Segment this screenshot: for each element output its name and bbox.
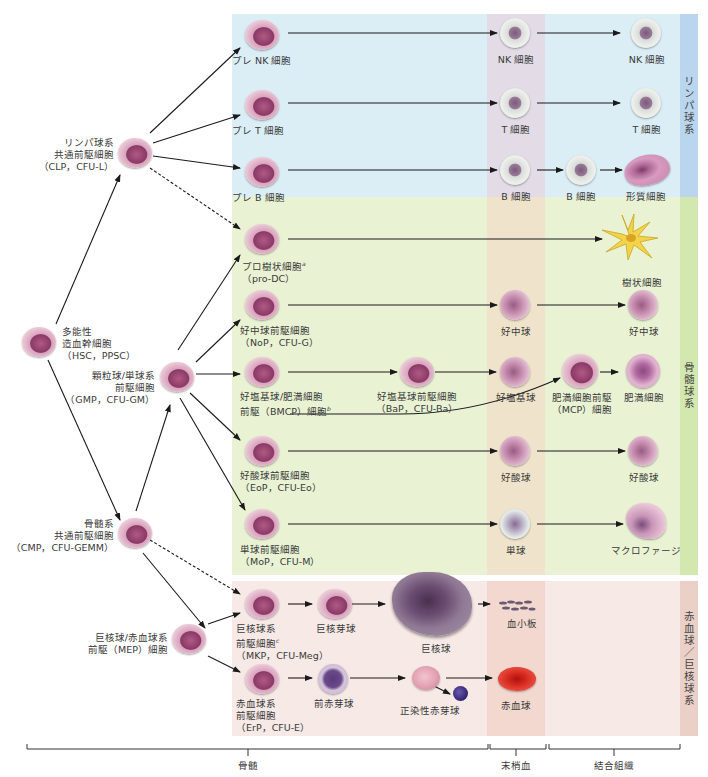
neutrophil-tissue-cell <box>628 290 658 320</box>
bmcp-cell <box>245 357 279 387</box>
eosinophil-tissue-cell <box>628 436 658 466</box>
pre-t-label: プレ T 細胞 <box>232 125 284 137</box>
pre-nk-cell <box>245 20 279 50</box>
t-tissue-label: T 細胞 <box>633 124 662 136</box>
dendritic-cell <box>600 212 660 262</box>
t-tissue-cell <box>631 88 661 118</box>
macrophage-label: マクロファージ <box>611 545 681 557</box>
scale-peripheral-blood: 末梢血 <box>501 760 531 772</box>
cmp-cell <box>118 518 152 548</box>
mkp-label: 巨核球系 前駆細胞c （MKP，CFU-Meg） <box>236 623 329 662</box>
b-tissue-label: B 細胞 <box>566 191 596 203</box>
scale-bone-marrow: 骨髄 <box>238 760 258 772</box>
bap-cell <box>400 357 434 387</box>
hsc-cell <box>22 327 56 357</box>
pro-dc-cell <box>245 224 279 254</box>
monocyte-cell <box>500 509 530 539</box>
megakaryocyte-label: 巨核球 <box>421 643 451 655</box>
pre-nk-label: プレ NK 細胞 <box>232 55 291 67</box>
bmcp-label: 好塩基球/肥満細胞 前駆（BMCP）細胞b <box>240 391 331 418</box>
cmp-label: 骨髄系 共通前駆細胞 （CMP，CFU-GEMM） <box>2 518 114 554</box>
t-blood-cell <box>500 88 530 118</box>
eop-label: 好酸球前駆細胞 （EoP，CFU-Eo） <box>240 470 322 494</box>
b-blood-cell <box>500 155 530 185</box>
rbc-label: 赤血球 <box>501 700 531 712</box>
lymphoid-side-label: リンパ球系 <box>680 14 698 197</box>
megakaryoblast-cell <box>318 589 352 619</box>
monocyte-label: 単球 <box>506 545 526 557</box>
mast-cell <box>626 354 660 388</box>
basophil-label: 好塩基球 <box>496 392 536 404</box>
eop-cell <box>245 436 279 466</box>
plasma-label: 形質細胞 <box>626 191 666 203</box>
pre-b-label: プレ B 細胞 <box>232 192 285 204</box>
neutrophil-blood-cell <box>500 290 530 320</box>
neutrophil-blood-label: 好中球 <box>501 326 531 338</box>
mcp-cell <box>562 354 598 388</box>
pre-b-cell <box>245 157 279 187</box>
erp-label: 赤血球系 前駆細胞 （ErP，CFU-E） <box>236 698 310 734</box>
eosinophil-blood-label: 好酸球 <box>501 472 531 484</box>
nk-blood-label: NK 細胞 <box>498 54 534 66</box>
clp-label: リンパ球系 共通前駆細胞 （CLP，CFU-L） <box>6 137 114 173</box>
mop-label: 単球前駆細胞 （MoP，CFU-M） <box>240 544 320 568</box>
platelet-icon <box>497 598 537 614</box>
basophil-cell <box>500 357 530 387</box>
megakaryoblast-label: 巨核芽球 <box>316 623 356 635</box>
nk-tissue-label: NK 細胞 <box>629 54 665 66</box>
neutrophil-tissue-label: 好中球 <box>629 326 659 338</box>
gmp-cell <box>160 362 194 392</box>
dc-label: 樹状細胞 <box>622 277 662 289</box>
erp-cell <box>245 664 279 694</box>
b-blood-label: B 細胞 <box>501 191 531 203</box>
erythroid-side-label: 赤血球／巨核球系 <box>680 581 698 736</box>
nop-cell <box>245 290 279 320</box>
bap-label: 好塩基球前駆細胞 （BaP，CFU-Ba） <box>376 391 459 415</box>
gmp-label: 顆粒球/単球系 前駆細胞 （GMP，CFU-GM） <box>40 370 155 406</box>
b-tissue-cell <box>566 155 596 185</box>
lymphoid-panel <box>232 14 680 197</box>
clp-cell <box>118 138 152 168</box>
extruded-nucleus <box>453 686 468 701</box>
scale-connective-tissue: 結合組織 <box>594 760 634 772</box>
red-blood-cell <box>498 667 536 691</box>
proerythroblast-cell <box>318 664 348 694</box>
nop-label: 好中球前駆細胞 （NoP，CFU-G） <box>240 325 319 349</box>
platelet-label: 血小板 <box>507 618 537 630</box>
t-blood-label: T 細胞 <box>502 124 531 136</box>
myeloid-side-label: 骨髄球系 <box>680 197 698 575</box>
mep-label: 巨核球/赤血球系 前駆（MEP）細胞 <box>50 632 168 656</box>
nk-blood-cell <box>500 18 530 48</box>
pro-dc-label: プロ樹状細胞a （pro-DC） <box>242 258 306 285</box>
mop-cell <box>245 509 279 539</box>
hsc-label: 多能性 造血幹細胞 （HSC，PPSC） <box>62 326 136 362</box>
mep-cell <box>172 624 206 654</box>
mcp-label: 肥満細胞前駆 （MCP）細胞 <box>552 392 613 416</box>
mast-label: 肥満細胞 <box>624 392 664 404</box>
eosinophil-blood-cell <box>500 436 530 466</box>
pre-t-cell <box>245 90 279 120</box>
nk-tissue-cell <box>631 18 661 48</box>
eosinophil-tissue-label: 好酸球 <box>629 472 659 484</box>
normoblast-cell <box>412 666 440 690</box>
mkp-cell <box>245 589 279 619</box>
proerythroblast-label: 前赤芽球 <box>314 698 354 710</box>
normoblast-label: 正染性赤芽球 <box>400 705 460 717</box>
